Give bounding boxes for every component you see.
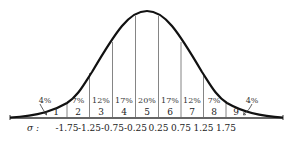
stanine-1: 1 <box>53 107 59 117</box>
stanine-9: 9 <box>233 107 239 117</box>
percent-4: 17% <box>115 96 133 105</box>
percent-5: 20% <box>138 96 156 105</box>
stanine-4: 4 <box>121 107 127 117</box>
sigma-tick: 0.75 <box>171 123 191 133</box>
stanine-labels: 1 2 3 4 5 6 7 8 9 <box>53 107 239 117</box>
sigma-tick: 1.75 <box>216 123 236 133</box>
percent-8: 7% <box>208 96 221 105</box>
stanine-5: 5 <box>144 107 150 117</box>
percent-6: 17% <box>161 96 179 105</box>
percent-9: 4% <box>246 96 259 105</box>
sigma-tick: -1.75 <box>55 123 78 133</box>
percent-2: 7% <box>72 96 85 105</box>
stanine-8: 8 <box>211 107 217 117</box>
percent-1: 4% <box>39 96 52 105</box>
sigma-tick: 1.25 <box>193 123 213 133</box>
stanine-diagram: 4% 7% 12% 17% 20% 17% 12% 7% 4% 1 2 3 4 … <box>0 0 296 143</box>
sigma-tick: 0.25 <box>148 123 168 133</box>
percent-3: 12% <box>92 96 110 105</box>
sigma-tick: -0.75 <box>101 123 124 133</box>
stanine-7: 7 <box>189 107 195 117</box>
percent-7: 12% <box>183 96 201 105</box>
stanine-6: 6 <box>167 107 173 117</box>
sigma-ticks: -1.75 -1.25 -0.75 -0.25 0.25 0.75 1.25 1… <box>55 123 236 133</box>
sigma-tick: -1.25 <box>78 123 101 133</box>
sigma-tick: -0.25 <box>124 123 147 133</box>
sigma-symbol: σ : <box>27 123 39 133</box>
stanine-3: 3 <box>98 107 104 117</box>
stanine-2: 2 <box>75 107 81 117</box>
